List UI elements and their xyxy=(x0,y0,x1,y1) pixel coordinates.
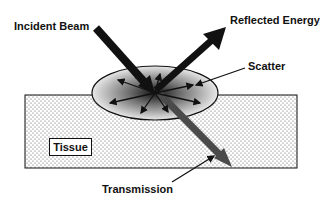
reflected-energy-label: Reflected Energy xyxy=(230,14,320,26)
incident-beam-label: Incident Beam xyxy=(14,20,89,32)
scatter-label: Scatter xyxy=(248,60,285,72)
transmission-label: Transmission xyxy=(102,183,173,195)
tissue-label: Tissue xyxy=(49,138,92,156)
